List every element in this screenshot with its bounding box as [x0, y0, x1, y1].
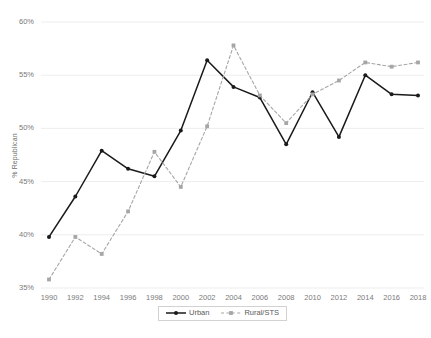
y-axis-tick-label: 50% [8, 124, 34, 132]
legend-swatch-dashed [221, 309, 241, 317]
plot-area [0, 0, 431, 338]
y-axis-tick-label: 60% [8, 18, 34, 26]
legend-item-label: Rural/STS [244, 309, 279, 317]
y-axis-tick-label: 40% [8, 231, 34, 239]
chart-container: % Republican 60%55%50%45%40%35% 19901992… [0, 0, 431, 338]
legend-item-urban[interactable]: Urban [166, 309, 209, 317]
chart-legend: UrbanRural/STS [158, 306, 287, 321]
legend-swatch-solid [166, 309, 186, 317]
legend-item-label: Urban [189, 309, 209, 317]
y-axis-tick-label: 45% [8, 178, 34, 186]
series-urban [47, 58, 420, 239]
y-axis-tick-label: 55% [8, 71, 34, 79]
y-axis-tick-label: 35% [8, 284, 34, 292]
legend-item-rural-sts[interactable]: Rural/STS [221, 309, 279, 317]
x-axis-tick-label: 2018 [403, 294, 431, 302]
